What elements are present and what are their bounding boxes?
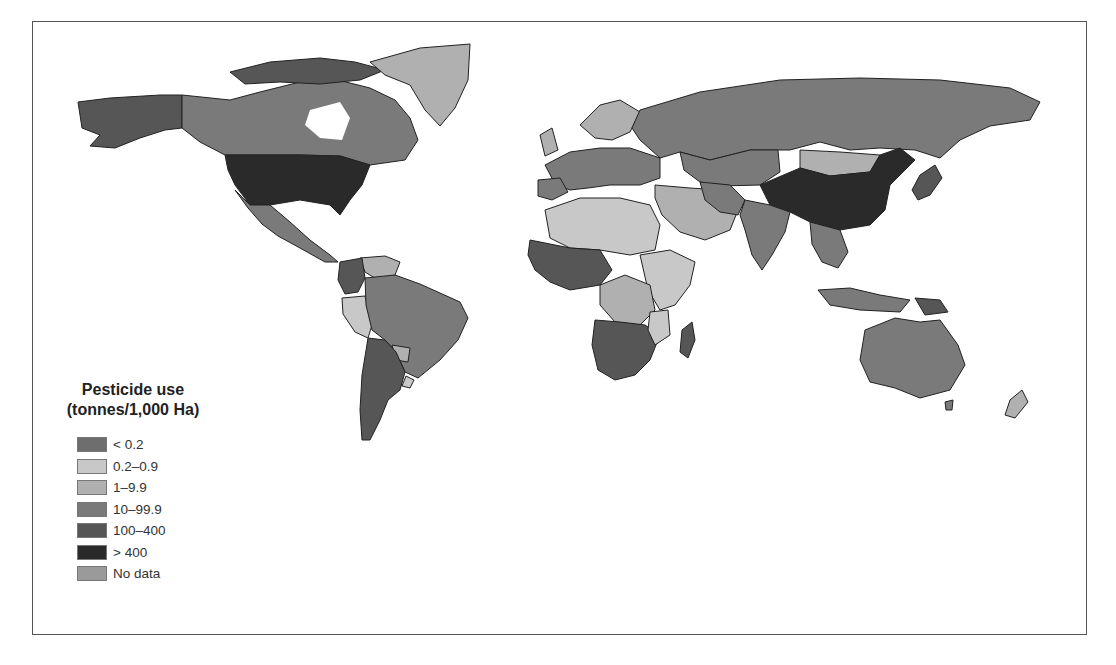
legend-item: 0.2–0.9 bbox=[77, 456, 248, 478]
region-indonesia bbox=[818, 288, 910, 312]
region-india bbox=[740, 200, 790, 270]
region-scandinavia bbox=[580, 100, 640, 140]
legend: Pesticide use (tonnes/1,000 Ha) < 0.2 0.… bbox=[48, 380, 248, 585]
legend-swatch bbox=[77, 502, 107, 517]
region-colombia bbox=[338, 258, 365, 294]
legend-swatch bbox=[77, 459, 107, 474]
legend-swatch bbox=[77, 523, 107, 538]
region-australia bbox=[860, 318, 965, 398]
region-arctic-islands bbox=[230, 58, 385, 84]
legend-label: 100–400 bbox=[113, 523, 166, 538]
legend-title-line2: (tonnes/1,000 Ha) bbox=[48, 400, 218, 420]
legend-item: > 400 bbox=[77, 542, 248, 564]
legend-items: < 0.2 0.2–0.9 1–9.9 10–99.9 100–400 > 40… bbox=[77, 434, 248, 585]
legend-label: 1–9.9 bbox=[113, 480, 147, 495]
region-new-zealand bbox=[1005, 390, 1028, 418]
legend-item: No data bbox=[77, 563, 248, 585]
region-alaska bbox=[78, 95, 182, 148]
legend-swatch bbox=[77, 437, 107, 452]
legend-swatch bbox=[77, 480, 107, 495]
legend-label: No data bbox=[113, 566, 160, 581]
legend-item: 10–99.9 bbox=[77, 499, 248, 521]
region-canada bbox=[182, 78, 418, 165]
legend-label: 0.2–0.9 bbox=[113, 459, 158, 474]
legend-item: 1–9.9 bbox=[77, 477, 248, 499]
legend-title-line1: Pesticide use bbox=[48, 380, 218, 400]
legend-title: Pesticide use (tonnes/1,000 Ha) bbox=[48, 380, 218, 420]
legend-item: 100–400 bbox=[77, 520, 248, 542]
legend-item: < 0.2 bbox=[77, 434, 248, 456]
legend-swatch bbox=[77, 545, 107, 560]
legend-swatch bbox=[77, 566, 107, 581]
region-uk bbox=[540, 128, 558, 156]
region-japan bbox=[912, 165, 942, 200]
region-tasmania bbox=[945, 400, 953, 410]
legend-label: > 400 bbox=[113, 545, 147, 560]
legend-label: < 0.2 bbox=[113, 437, 143, 452]
region-madagascar bbox=[680, 322, 695, 358]
region-papua bbox=[915, 298, 948, 315]
region-russia bbox=[632, 78, 1040, 160]
legend-label: 10–99.9 bbox=[113, 502, 162, 517]
